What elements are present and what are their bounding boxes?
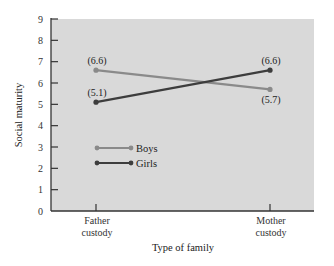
data-point: [93, 100, 98, 105]
legend-label: Boys: [136, 143, 158, 154]
y-tick-label: 7: [38, 56, 43, 67]
plot-area: [51, 19, 314, 211]
y-axis-title: Social maturity: [13, 82, 24, 147]
x-axis-title: Type of family: [152, 242, 215, 253]
y-tick-label: 1: [38, 184, 43, 195]
legend-label: Girls: [136, 158, 157, 169]
data-label: (6.6): [261, 55, 280, 67]
y-tick-label: 0: [38, 206, 43, 217]
y-tick-label: 5: [38, 99, 43, 110]
y-tick-label: 4: [38, 120, 43, 131]
data-label: (5.1): [87, 87, 106, 99]
data-label: (5.7): [261, 94, 280, 106]
legend-marker: [95, 161, 100, 166]
data-label: (6.6): [87, 55, 106, 67]
data-point: [267, 68, 272, 73]
x-tick-label: custody: [255, 227, 286, 238]
x-tick-label: Mother: [256, 215, 286, 226]
y-tick-label: 2: [38, 163, 43, 174]
x-tick-label: Father: [84, 215, 110, 226]
y-tick-label: 3: [38, 142, 43, 153]
data-point: [93, 68, 98, 73]
x-tick-label: custody: [81, 227, 112, 238]
legend-marker: [129, 161, 134, 166]
y-tick-label: 9: [38, 14, 43, 25]
legend-marker: [129, 146, 134, 151]
legend-marker: [95, 146, 100, 151]
line-chart: 0123456789 FathercustodyMothercustody So…: [0, 0, 334, 266]
y-tick-label: 8: [38, 35, 43, 46]
data-point: [267, 87, 272, 92]
y-tick-label: 6: [38, 78, 43, 89]
